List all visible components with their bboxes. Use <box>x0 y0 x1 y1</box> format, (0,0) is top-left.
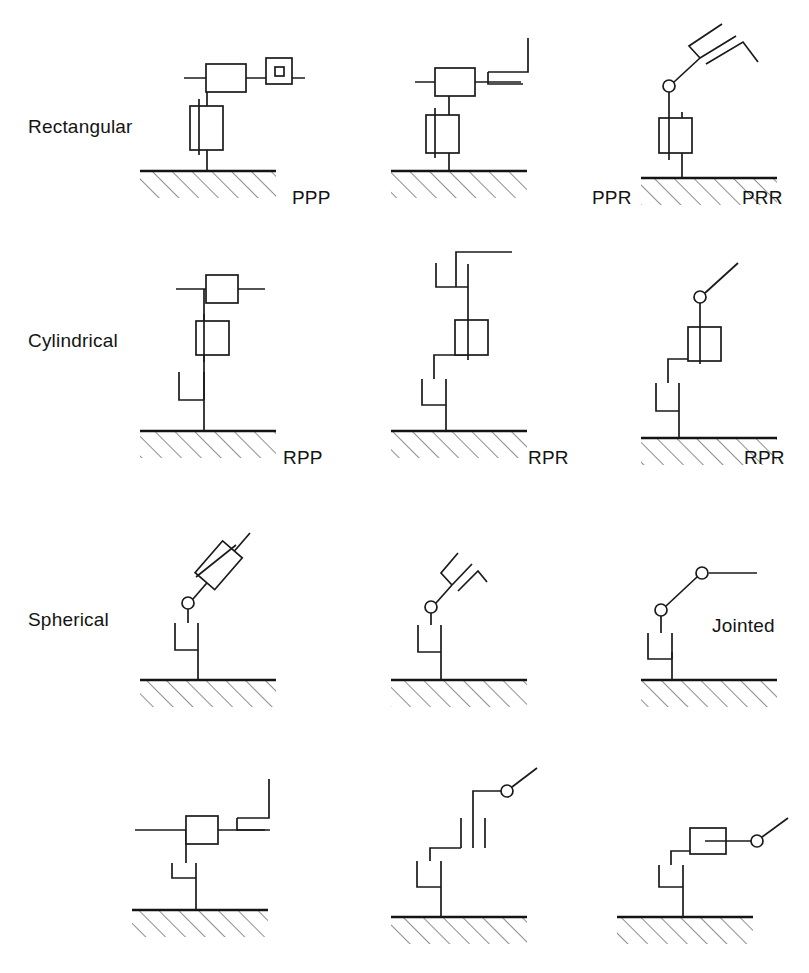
cell-row4-1[interactable] <box>132 779 270 937</box>
manipulator-row4-2 <box>417 768 537 917</box>
row-spherical: Spherical <box>28 533 777 707</box>
figure-root: Rectangular PPP <box>0 0 809 973</box>
manipulator-prr <box>659 24 758 178</box>
ground-row4-1 <box>132 910 268 937</box>
row-label-cylindrical: Cylindrical <box>28 330 118 351</box>
ground-rpr-a <box>391 431 527 458</box>
ground-row4-2 <box>391 917 527 944</box>
manipulator-rpr-b <box>656 263 738 438</box>
ground-row4-3 <box>617 917 753 944</box>
ground-spherical-1 <box>140 680 276 707</box>
manipulator-spherical-2 <box>418 553 487 680</box>
row-label-spherical: Spherical <box>28 609 109 630</box>
cell-row4-2[interactable] <box>391 768 537 944</box>
config-label-ppp: PPP <box>292 187 331 208</box>
manipulator-rpr-a <box>422 252 512 431</box>
ground-ppp <box>140 171 276 198</box>
cell-row4-3[interactable] <box>617 818 788 944</box>
ground-ppr <box>391 171 527 198</box>
ground-jointed <box>641 680 777 707</box>
manipulator-row4-3 <box>659 818 788 917</box>
manipulator-row4-1 <box>135 779 270 910</box>
row-four <box>132 768 788 944</box>
config-label-rpr-b: RPR <box>744 447 785 468</box>
manipulator-ppr <box>415 38 528 171</box>
cell-jointed[interactable]: Jointed <box>641 567 777 707</box>
config-label-rpr-a: RPR <box>528 447 569 468</box>
cell-rpr-a[interactable]: RPR <box>391 252 569 468</box>
ground-rpp <box>140 431 276 458</box>
cell-spherical-2[interactable] <box>391 553 527 707</box>
config-label-rpp: RPP <box>283 447 323 468</box>
ground-spherical-2 <box>391 680 527 707</box>
cell-spherical-1[interactable] <box>140 533 276 707</box>
cell-rpp[interactable]: RPP <box>140 275 323 468</box>
row-rectangular: Rectangular PPP <box>28 24 783 208</box>
row-cylindrical: Cylindrical RPP <box>28 252 785 468</box>
manipulator-ppp <box>184 58 305 171</box>
cell-prr[interactable]: PRR <box>641 24 783 208</box>
cell-ppr[interactable]: PPR <box>391 38 632 208</box>
manipulator-spherical-1 <box>175 533 250 680</box>
manipulator-rpp <box>176 275 265 431</box>
cell-ppp[interactable]: PPP <box>140 58 331 208</box>
config-label-prr: PRR <box>742 187 783 208</box>
config-label-ppr: PPR <box>592 187 632 208</box>
row-label-rectangular: Rectangular <box>28 116 133 137</box>
cell-rpr-b[interactable]: RPR <box>641 263 785 468</box>
robot-configurations-diagram: Rectangular PPP <box>0 0 809 973</box>
jointed-label: Jointed <box>712 615 775 636</box>
